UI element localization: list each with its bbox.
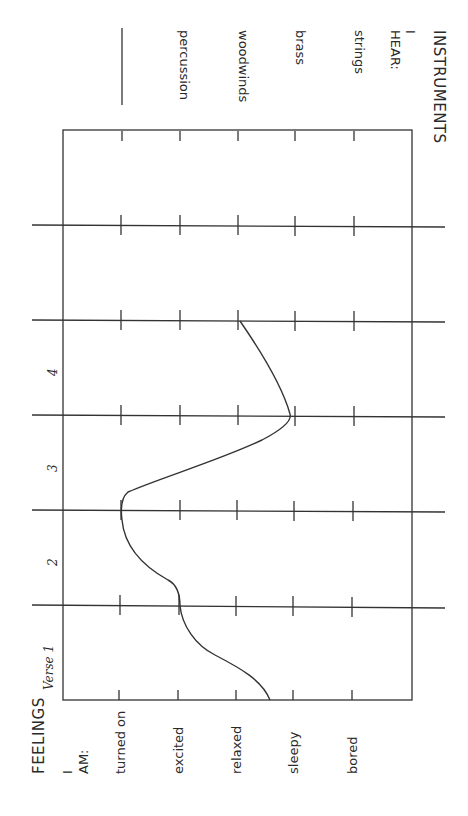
section-label-4: 4 — [46, 368, 60, 376]
instrument-label-brass: brass — [293, 30, 308, 65]
feeling-label-bored: bored — [345, 736, 360, 774]
instrument-label-strings: strings — [352, 30, 367, 74]
feelings-title: FEELINGS — [30, 697, 48, 774]
instrument-label-woodwinds: woodwinds — [236, 30, 251, 102]
instruments-title: INSTRUMENTS — [430, 30, 448, 144]
section-label-2: 2 — [46, 558, 60, 566]
feeling-label-relaxed: relaxed — [229, 726, 244, 774]
feeling-label-turned-on: turned on — [113, 711, 128, 774]
section-divider-1 — [32, 605, 445, 608]
instruments-prompt-i: I — [403, 30, 418, 34]
instrument-label-percussion: percussion — [177, 30, 192, 100]
section-divider-2 — [32, 510, 445, 512]
feelings-prompt-am: AM: — [76, 750, 91, 775]
feeling-label-sleepy: sleepy — [286, 732, 301, 774]
feeling-label-excited: excited — [171, 727, 186, 774]
section-label-verse-1: Verse 1 — [42, 645, 56, 690]
chart-grid — [0, 0, 468, 816]
instruments-prompt-hear: HEAR: — [388, 30, 403, 70]
feelings-prompt-i: I — [60, 770, 75, 774]
section-label-3: 3 — [46, 464, 60, 472]
